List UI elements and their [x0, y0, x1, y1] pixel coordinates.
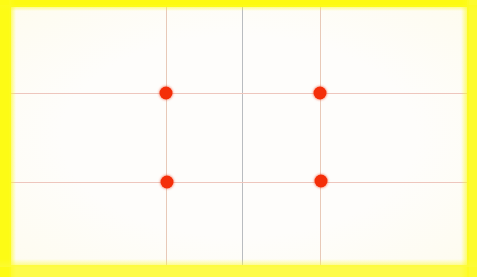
focus-point-bottom-right[interactable] — [315, 175, 328, 188]
grid-line-vertical-right — [320, 7, 321, 265]
frame-border-top — [0, 0, 477, 7]
frame-border-bottom — [0, 265, 477, 277]
photo-canvas — [0, 0, 477, 277]
focus-point-top-right[interactable] — [314, 87, 327, 100]
grid-line-horizontal-upper — [11, 93, 467, 94]
focus-point-bottom-left[interactable] — [161, 176, 174, 189]
grid-line-vertical-center — [242, 7, 243, 265]
focus-point-top-left[interactable] — [160, 87, 173, 100]
frame-border-right — [467, 0, 477, 277]
image-area — [11, 7, 467, 265]
frame-border-left — [0, 0, 11, 277]
grid-line-horizontal-lower — [11, 182, 467, 183]
grid-line-vertical-left — [166, 7, 167, 265]
rule-of-thirds-grid — [11, 7, 467, 265]
